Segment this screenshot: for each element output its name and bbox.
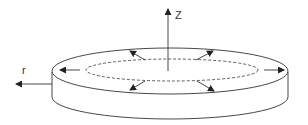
disc-diagram: Z r xyxy=(0,0,308,125)
disc-top-face xyxy=(52,48,288,94)
r-axis-label: r xyxy=(22,64,26,76)
z-axis-label: Z xyxy=(175,9,182,21)
